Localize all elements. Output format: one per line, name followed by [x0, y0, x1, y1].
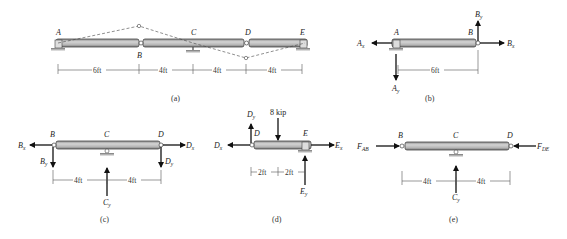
- label-point-b: B: [468, 28, 473, 37]
- caption-a: (a): [171, 94, 180, 103]
- label-force-dy: Dy: [164, 157, 174, 167]
- panel-e: B C D FAB FDE Cy 4ft 4ft (e): [356, 131, 550, 224]
- beam-diagram: A B C D E 6ft 4ft 4ft 4ft (a): [0, 0, 567, 239]
- label-load: 8 kip: [270, 108, 286, 117]
- panel-c: B C D Bx By Cy Dx Dy 4ft 4ft (c): [18, 130, 195, 224]
- label-point-c: C: [104, 130, 110, 139]
- pin-support-c: [186, 47, 200, 53]
- hinge-d: [159, 143, 163, 147]
- label-force-fab: FAB: [356, 142, 369, 152]
- label-point-b: B: [50, 130, 55, 139]
- dim-load-e: 2ft: [285, 168, 294, 177]
- hinge-b: [139, 41, 143, 45]
- label-force-fde: FDE: [536, 142, 550, 152]
- beam-segment-bd: [143, 39, 244, 47]
- label-force-dy: Dy: [246, 110, 256, 120]
- panel-d: D E 8 kip Dx Dy Ex Ey 2ft 2ft (d): [213, 108, 343, 224]
- panel-a: A B C D E 6ft 4ft 4ft 4ft (a): [51, 24, 310, 103]
- label-point-d: D: [244, 28, 251, 37]
- dim-bc: 4ft: [423, 177, 432, 186]
- dim-cd: 4ft: [477, 177, 486, 186]
- caption-c: (c): [100, 215, 109, 224]
- hinge-d: [509, 144, 513, 148]
- label-point-d: D: [506, 131, 513, 140]
- dim-cd: 4ft: [213, 66, 222, 75]
- beam-ab: [392, 39, 476, 47]
- label-point-a: A: [393, 28, 399, 37]
- label-point-c: C: [191, 28, 197, 37]
- label-force-ax: Ax: [356, 39, 365, 49]
- label-point-e: E: [302, 129, 308, 138]
- label-force-bx: Bx: [507, 39, 515, 49]
- pin-support-c: [449, 150, 463, 157]
- label-point-e: E: [299, 28, 305, 37]
- label-force-cy: Cy: [103, 198, 111, 208]
- label-point-b: B: [398, 131, 403, 140]
- label-force-by: By: [475, 10, 483, 20]
- hinge-d: [250, 143, 254, 147]
- dim-ab: 6ft: [431, 66, 440, 75]
- label-point-c: C: [453, 131, 459, 140]
- caption-d: (d): [272, 215, 282, 224]
- dim-cd: 4ft: [128, 176, 137, 185]
- label-point-b: B: [137, 51, 142, 60]
- caption-b: (b): [425, 94, 435, 103]
- deflected-hinge-b: [137, 24, 140, 27]
- panel-b: A B Ax Ay Bx By 6ft (b): [356, 10, 515, 103]
- hinge-b: [400, 144, 404, 148]
- deflected-hinge-d: [244, 56, 247, 59]
- beam-segment-de: [249, 39, 307, 47]
- label-force-cy: Cy: [452, 193, 460, 203]
- hinge-d: [245, 41, 249, 45]
- label-point-a: A: [55, 28, 61, 37]
- label-force-bx: Bx: [18, 141, 26, 151]
- label-force-ey: Ey: [299, 187, 308, 197]
- label-point-d: D: [253, 129, 260, 138]
- label-force-ay: Ay: [391, 84, 400, 94]
- dim-bc: 4ft: [159, 66, 168, 75]
- label-force-dx: Dx: [213, 141, 223, 151]
- hinge-b: [476, 41, 480, 45]
- label-point-d: D: [157, 130, 164, 139]
- caption-e: (e): [449, 215, 458, 224]
- beam-bd: [56, 141, 160, 149]
- beam-segment-ab: [56, 39, 139, 47]
- label-force-ex: Ex: [334, 141, 343, 151]
- label-force-by: By: [40, 157, 48, 167]
- dim-d-load: 2ft: [258, 168, 267, 177]
- pin-support-c: [100, 149, 114, 156]
- hinge-b: [52, 143, 56, 147]
- dim-ab: 6ft: [93, 66, 102, 75]
- dim-bc: 4ft: [74, 176, 83, 185]
- label-force-dx: Dx: [185, 141, 195, 151]
- dim-de: 4ft: [268, 66, 277, 75]
- beam-bd: [405, 142, 509, 150]
